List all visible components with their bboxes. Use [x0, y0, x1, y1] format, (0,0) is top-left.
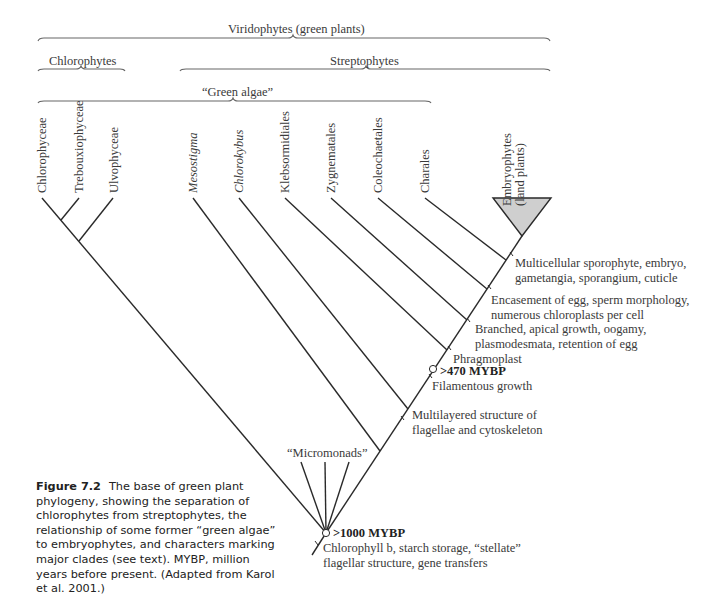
label-chlorophytes: Chlorophytes: [49, 54, 116, 68]
node-1000-mybp: [322, 529, 329, 536]
taxon-micromonads: “Micromonads”: [287, 446, 368, 460]
taxon-chlorokybus: Chlorokybus: [233, 130, 246, 193]
taxon-ulvophyceae: Ulvophyceae: [108, 127, 121, 193]
date-470-mybp: >470 MYBP: [440, 364, 506, 379]
taxon-embryophytes-subtitle: (land plants): [514, 143, 527, 206]
taxon-zygnematales: Zygnematales: [325, 123, 338, 193]
figure-label: Figure 7.2: [36, 480, 101, 493]
character-line: Branched, apical growth, oogamy,: [475, 322, 646, 337]
taxon-mesostigma: Mesostigma: [187, 133, 200, 193]
taxon-trebouxiophyceae: Trebouxiophyceae: [73, 100, 86, 193]
taxon-coleochaetales: Coleochaetales: [372, 117, 385, 193]
character-line: plasmodesmata, retention of egg: [475, 337, 646, 352]
character-line: Chlorophyll b, starch storage, “stellate…: [323, 541, 521, 556]
figure-caption: Figure 7.2The base of green plant phylog…: [36, 480, 280, 595]
character-line: flagellar structure, gene transfers: [323, 556, 521, 571]
label-streptophytes: Streptophytes: [330, 54, 399, 68]
node-470-mybp: [429, 365, 436, 372]
character-multilayered-structure: Multilayered structure of flagellae and …: [412, 408, 543, 438]
taxon-charales: Charales: [419, 149, 432, 193]
character-line: Multicellular sporophyte, embryo,: [515, 256, 687, 271]
character-line: gametangia, sporangium, cuticle: [515, 271, 687, 286]
character-line: numerous chloroplasts per cell: [491, 308, 689, 323]
character-embryophytes: Multicellular sporophyte, embryo, gameta…: [515, 256, 687, 286]
character-filamentous-growth: Filamentous growth: [432, 379, 532, 394]
taxon-klebsormidiales: Klebsormidiales: [279, 111, 292, 193]
character-charales-embryophytes: Encasement of egg, sperm morphology, num…: [491, 293, 689, 323]
character-line: flagellae and cytoskeleton: [412, 423, 543, 438]
character-line: Multilayered structure of: [412, 408, 543, 423]
taxon-chlorophyceae: Chlorophyceae: [36, 117, 49, 193]
date-1000-mybp: >1000 MYBP: [333, 526, 405, 541]
label-green-algae: “Green algae”: [202, 85, 273, 99]
character-line: Encasement of egg, sperm morphology,: [491, 293, 689, 308]
micromonad-branches: [301, 462, 349, 533]
caption-text: The base of green plant phylogeny, showi…: [36, 480, 275, 595]
label-viridophytes: Viridophytes (green plants): [228, 22, 365, 36]
character-coleochaetales-clade: Branched, apical growth, oogamy, plasmod…: [475, 322, 646, 352]
character-root: Chlorophyll b, starch storage, “stellate…: [323, 541, 521, 571]
